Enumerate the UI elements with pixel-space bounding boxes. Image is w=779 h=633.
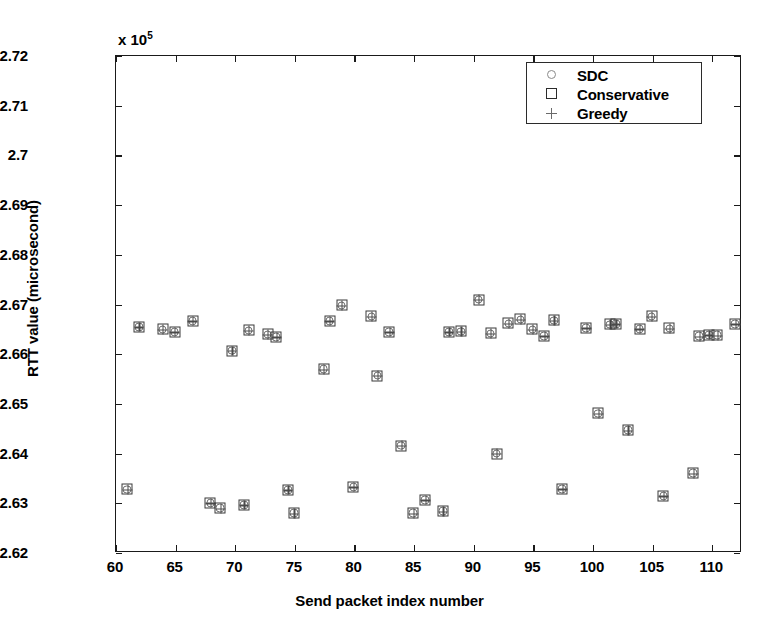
data-point-marker — [133, 321, 146, 334]
y-axis-tick — [116, 205, 122, 206]
data-point-marker — [336, 300, 349, 313]
y-axis-exponent-label: x 105 — [118, 30, 153, 48]
data-point-marker — [548, 315, 561, 328]
y-axis-tick — [734, 305, 740, 306]
data-point-marker — [420, 494, 433, 507]
x-axis-tick — [295, 545, 296, 551]
data-point-marker — [473, 294, 486, 307]
y-axis-tick — [734, 106, 740, 107]
y-tick-label: 2.63 — [0, 494, 28, 511]
y-axis-tick — [734, 155, 740, 156]
legend-item-greedy[interactable]: Greedy — [527, 103, 703, 123]
x-tick-label: 75 — [286, 558, 302, 575]
y-tick-label: 2.71 — [0, 96, 28, 113]
x-axis-tick — [474, 545, 475, 551]
data-point-marker — [730, 318, 743, 331]
data-point-marker — [664, 323, 677, 336]
figure-canvas: x 105 Send packet index number RTT value… — [0, 0, 779, 633]
data-point-marker — [485, 328, 498, 341]
data-point-marker — [592, 408, 605, 421]
x-axis-tick — [414, 545, 415, 551]
y-tick-label: 2.65 — [0, 394, 28, 411]
x-axis-tick — [116, 56, 117, 62]
data-point-marker — [243, 325, 256, 338]
data-point-marker — [270, 331, 283, 344]
y-axis-tick — [116, 553, 122, 554]
x-axis-tick — [235, 545, 236, 551]
legend-label-greedy: Greedy — [577, 106, 628, 121]
data-point-marker — [491, 448, 504, 461]
x-tick-label: 65 — [166, 558, 182, 575]
x-tick-label: 100 — [580, 558, 604, 575]
data-point-marker — [372, 370, 385, 383]
y-tick-label: 2.66 — [0, 345, 28, 362]
x-tick-label: 90 — [465, 558, 481, 575]
x-tick-label: 80 — [345, 558, 361, 575]
x-axis-tick — [176, 545, 177, 551]
y-axis-tick — [734, 255, 740, 256]
y-tick-label: 2.67 — [0, 295, 28, 312]
x-tick-label: 95 — [524, 558, 540, 575]
x-axis-tick — [354, 545, 355, 551]
x-axis-tick — [354, 56, 355, 62]
y-axis-tick — [734, 56, 740, 57]
circle-marker-icon — [545, 69, 558, 82]
data-point-marker — [580, 322, 593, 335]
y-axis-tick — [116, 255, 122, 256]
y-tick-label: 2.69 — [0, 196, 28, 213]
data-point-marker — [634, 323, 647, 336]
data-point-marker — [348, 481, 361, 494]
data-point-marker — [214, 503, 227, 516]
y-axis-tick — [116, 454, 122, 455]
y-tick-label: 2.64 — [0, 444, 28, 461]
x-axis-title: Send packet index number — [0, 592, 779, 609]
y-axis-tick — [734, 553, 740, 554]
plus-marker-icon — [545, 107, 558, 120]
data-point-marker — [288, 508, 301, 521]
legend-label-sdc: SDC — [577, 68, 608, 83]
data-point-marker — [455, 326, 468, 339]
data-point-marker — [121, 484, 134, 497]
y-axis-tick — [116, 106, 122, 107]
y-tick-label: 2.68 — [0, 245, 28, 262]
y-axis-tick — [734, 354, 740, 355]
x-axis-tick — [712, 56, 713, 62]
data-point-marker — [557, 483, 570, 496]
y-axis-tick — [116, 404, 122, 405]
x-tick-label: 70 — [226, 558, 242, 575]
y-exponent-base: x 10 — [118, 31, 147, 48]
x-axis-tick — [533, 545, 534, 551]
x-axis-tick — [474, 56, 475, 62]
data-point-marker — [187, 315, 200, 328]
x-tick-label: 85 — [405, 558, 421, 575]
data-point-marker — [437, 506, 450, 519]
data-point-marker — [622, 425, 635, 438]
y-tick-label: 2.7 — [0, 146, 28, 163]
data-point-marker — [712, 330, 725, 343]
data-point-marker — [610, 318, 623, 331]
y-axis-tick — [116, 503, 122, 504]
data-point-marker — [169, 326, 182, 339]
x-tick-label: 105 — [639, 558, 663, 575]
data-point-marker — [396, 440, 409, 453]
y-tick-label: 2.62 — [0, 544, 28, 561]
x-axis-tick — [593, 545, 594, 551]
y-axis-tick — [116, 305, 122, 306]
data-point-marker — [318, 364, 331, 377]
y-axis-tick — [734, 454, 740, 455]
x-axis-tick — [414, 56, 415, 62]
data-point-marker — [539, 330, 552, 343]
y-axis-tick — [116, 155, 122, 156]
data-point-marker — [324, 315, 337, 328]
x-tick-label: 110 — [699, 558, 723, 575]
y-axis-tick — [734, 404, 740, 405]
x-axis-tick — [295, 56, 296, 62]
x-axis-tick — [235, 56, 236, 62]
x-axis-tick — [176, 56, 177, 62]
data-point-marker — [366, 311, 379, 324]
data-point-marker — [384, 326, 397, 339]
legend-box[interactable]: SDC Conservative Greedy — [526, 62, 702, 124]
data-point-marker — [408, 508, 421, 521]
legend-item-sdc[interactable]: SDC — [527, 65, 703, 85]
legend-item-conservative[interactable]: Conservative — [527, 84, 703, 104]
